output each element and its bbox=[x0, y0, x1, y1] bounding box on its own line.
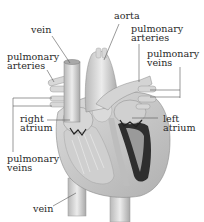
label-right-atrium-2: atrium bbox=[20, 123, 53, 132]
heart-diagram: vein aorta pulmonary arteries pulmonary … bbox=[0, 0, 204, 222]
label-pulmonary-veins-right-2: veins bbox=[147, 58, 172, 67]
label-vein-bottom: vein bbox=[33, 204, 53, 213]
label-aorta: aorta bbox=[114, 11, 140, 20]
label-pulmonary-arteries-left-2: arteries bbox=[7, 61, 45, 70]
label-pulmonary-veins-left-2: veins bbox=[7, 163, 32, 172]
label-left-atrium-2: atrium bbox=[163, 123, 196, 132]
superior-vein bbox=[64, 62, 80, 122]
label-vein-top: vein bbox=[31, 25, 51, 34]
label-pulmonary-arteries-right-2: arteries bbox=[131, 33, 169, 42]
